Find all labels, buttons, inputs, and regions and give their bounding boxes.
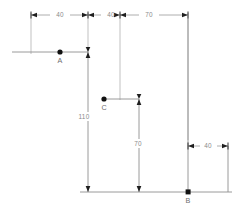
point-label-C: C <box>101 103 106 112</box>
dimension-drawing: 40 40 70 110 <box>0 0 247 211</box>
arrowhead-c-stub-end <box>137 94 142 99</box>
extension-lines <box>31 13 188 140</box>
point-C-marker[interactable] <box>101 96 106 101</box>
points-group <box>57 49 190 194</box>
dimension-label-top-2: 40 <box>107 11 115 18</box>
point-B-marker[interactable] <box>186 189 191 194</box>
arrow-top-seg2-right <box>114 13 120 18</box>
point-label-A: A <box>58 56 63 65</box>
arrowhead-a-stub-end <box>86 47 91 52</box>
point-A-marker[interactable] <box>57 49 62 54</box>
arrow-70v-top <box>137 99 142 105</box>
arrow-40b-right <box>222 144 228 149</box>
diagram-canvas: 40 40 70 110 <box>0 0 247 211</box>
point-label-B: B <box>186 196 191 205</box>
arrow-top-seg3-left <box>120 13 126 18</box>
arrow-40b-left <box>188 144 194 149</box>
dimension-label-70-vertical: 70 <box>134 140 142 147</box>
arrow-110-bottom <box>86 186 91 192</box>
arrow-top-seg1-right <box>82 13 88 18</box>
arrow-top-left-out <box>31 13 37 18</box>
arrow-70v-bottom <box>137 186 142 192</box>
object-outline <box>12 15 232 192</box>
arrow-top-seg2-left <box>88 13 94 18</box>
arrow-110-top <box>86 52 91 58</box>
dimension-label-110: 110 <box>79 113 90 120</box>
dimension-label-40-bottom: 40 <box>204 142 212 149</box>
dimension-label-top-3: 70 <box>145 11 153 18</box>
dimension-label-top-1: 40 <box>56 11 64 18</box>
object-endpoint-ticks <box>86 47 142 99</box>
dimension-110: 110 <box>78 52 91 192</box>
arrow-top-seg3-right <box>182 13 188 18</box>
dimension-70-vertical: 70 <box>132 99 145 192</box>
